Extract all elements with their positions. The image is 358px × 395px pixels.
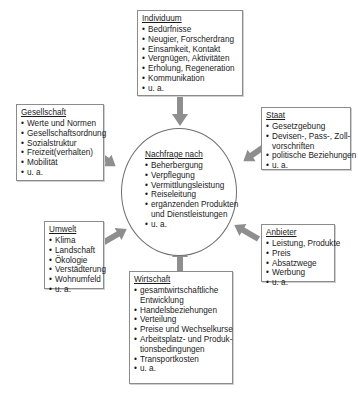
list-item-continuation: und Dienstleistungen	[151, 210, 227, 219]
list-item: Landschaft	[49, 246, 99, 256]
list-item: ergänzenden Produkten	[145, 200, 238, 210]
list-item: Leistung, Produkte	[266, 239, 330, 249]
center-demand: Nachfrage nach Beherbergung Verpflegung …	[145, 150, 238, 230]
list-item: Vergnügen, Aktivitäten	[142, 54, 238, 64]
list-item: Absatzwege	[266, 259, 330, 269]
list-item: u. a.	[134, 364, 228, 374]
list-item: Neugier, Forscherdrang	[142, 35, 238, 45]
list-item: Vermittlungsleistung	[145, 181, 238, 191]
list-item: Sozialstruktur	[21, 139, 99, 149]
list-item: u. a.	[142, 84, 238, 94]
list-item: Werbung	[266, 268, 330, 278]
list-item: gesamtwirtschaftliche	[134, 286, 228, 296]
list-item: Reiseleitung	[145, 190, 238, 200]
list-item: Kommunikation	[142, 74, 238, 84]
list-item: u. a.	[49, 285, 99, 295]
box-title: Staat	[266, 111, 346, 121]
box-individuum: Individuum Bedürfnisse Neugier, Forscher…	[137, 10, 243, 96]
list-item: Klima	[49, 236, 99, 246]
list-item: Wohnumfeld	[49, 275, 99, 285]
list-item: Ökologie	[49, 256, 99, 266]
box-title: Anbieter	[266, 228, 330, 238]
list-item: u. a.	[266, 161, 346, 171]
list-item: u. a.	[21, 168, 99, 178]
list-item: und Dienstleistungen	[145, 210, 238, 220]
list-item: Freizeit(verhalten)	[21, 148, 99, 158]
box-title: Wirtschaft	[134, 275, 228, 285]
list-item: Beherbergung	[145, 161, 238, 171]
list-item: u. a.	[266, 278, 330, 288]
box-title: Umwelt	[49, 225, 99, 235]
box-wirtschaft: Wirtschaft gesamtwirtschaftliche Entwick…	[129, 271, 233, 384]
arrow-down-icon	[172, 96, 188, 126]
list-item-continuation: vorschriften	[272, 142, 314, 151]
box-title: Gesellschaft	[21, 108, 99, 118]
list-item: Gesellschaftsordnung	[21, 129, 99, 139]
list-item: tionsbedingungen	[134, 345, 228, 355]
list-item: Devisen-, Pass-, Zoll-	[266, 132, 346, 142]
list-item: Verstädterung	[49, 265, 99, 275]
list-item: Verteilung	[134, 315, 228, 325]
list-item: Einsamkeit, Kontakt	[142, 45, 238, 55]
list-item: Bedürfnisse	[142, 25, 238, 35]
list-item: politische Beziehungen	[266, 151, 346, 161]
box-gesellschaft: Gesellschaft Werte und Normen Gesellscha…	[16, 104, 104, 181]
box-umwelt: Umwelt Klima Landschaft Ökologie Verstäd…	[44, 221, 104, 289]
list-item-continuation: tionsbedingungen	[140, 345, 205, 354]
list-item: Preis	[266, 249, 330, 259]
center-title: Nachfrage nach	[145, 150, 238, 160]
list-item-continuation: Entwicklung	[140, 296, 184, 305]
list-item: u. a.	[145, 220, 238, 230]
list-item: Gesetzgebung	[266, 122, 346, 132]
list-item: Verpflegung	[145, 171, 238, 181]
list-item: Handelsbeziehungen	[134, 306, 228, 316]
box-staat: Staat Gesetzgebung Devisen-, Pass-, Zoll…	[261, 107, 351, 170]
list-item: Entwicklung	[134, 296, 228, 306]
list-item: Arbeitsplatz- und Produk-	[134, 335, 228, 345]
box-title: Individuum	[142, 14, 238, 24]
list-item: Werte und Normen	[21, 119, 99, 129]
list-item: vorschriften	[266, 142, 346, 152]
list-item: Mobilität	[21, 158, 99, 168]
list-item: Erholung, Regeneration	[142, 64, 238, 74]
list-item: Transportkosten	[134, 355, 228, 365]
list-item: Preise und Wechselkurse	[134, 325, 228, 335]
box-anbieter: Anbieter Leistung, Produkte Preis Absatz…	[261, 224, 335, 282]
